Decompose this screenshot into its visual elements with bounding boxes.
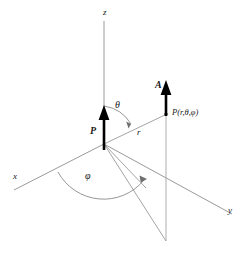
projection-ray-line <box>104 144 166 241</box>
radius-label: r <box>137 128 141 137</box>
z-axis-label: z <box>103 8 107 17</box>
vector-p-arrowhead <box>99 105 110 120</box>
point-p-marker <box>164 112 167 115</box>
phi-direction-ray <box>104 144 146 188</box>
x-axis-label: x <box>13 172 17 181</box>
y-axis-line <box>104 144 232 214</box>
figure-canvas <box>0 0 242 255</box>
phi-angle-label: φ <box>85 171 91 181</box>
vector-a-arrowhead <box>161 80 172 95</box>
y-axis-label: y <box>228 206 232 215</box>
theta-angle-label: θ <box>115 100 120 110</box>
vector-a-label: A <box>155 80 162 90</box>
spherical-coordinates-figure: z x y θ φ r A P P(r,θ,φ) <box>0 0 242 255</box>
point-p-label: P(r,θ,φ) <box>172 108 198 117</box>
x-axis-line <box>14 144 104 190</box>
radius-line <box>104 114 167 144</box>
vector-p-label: P <box>90 126 96 136</box>
